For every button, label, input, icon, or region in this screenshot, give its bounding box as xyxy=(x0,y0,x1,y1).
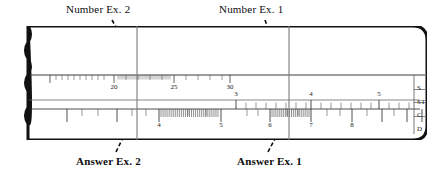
scale-name-c: C xyxy=(417,111,422,119)
scale-d-label-8: 8 xyxy=(350,121,354,129)
scale-st-label-4: 4 xyxy=(309,90,313,98)
slide-rule-graphics xyxy=(22,26,427,140)
scale-d-label-7: 7 xyxy=(309,121,313,129)
scale-s-label-30: 30 xyxy=(227,83,234,91)
scale-s-label-20: 20 xyxy=(111,83,118,91)
scale-name-st: ST xyxy=(417,98,425,106)
scale-name-d: D xyxy=(417,125,422,133)
scale-st-label-3: 3 xyxy=(234,90,238,98)
scale-d-label-5: 5 xyxy=(219,121,223,129)
scale-d-label-4: 4 xyxy=(157,121,161,129)
scale-s-label-25: 25 xyxy=(171,83,178,91)
slide-rule-figure: Number Ex. 2 Number Ex. 1 Answer Ex. 2 A… xyxy=(0,0,448,177)
scale-name-s: S xyxy=(417,84,421,92)
scale-st-label-5: 5 xyxy=(377,90,381,98)
slide-rule: 20253034545678 SSTCD xyxy=(22,26,427,140)
scale-d-label-6: 6 xyxy=(268,121,272,129)
